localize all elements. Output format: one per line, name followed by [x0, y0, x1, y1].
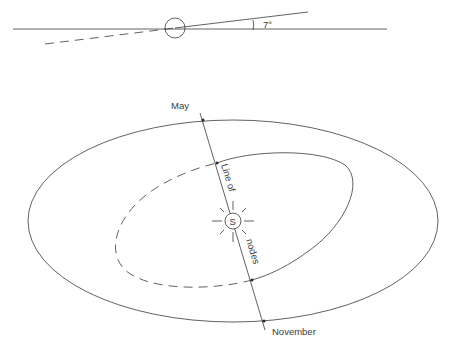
may-label: May — [171, 100, 189, 111]
node-dot-inner-upper — [216, 162, 219, 165]
november-label: November — [272, 326, 316, 337]
node-dot-november — [263, 320, 266, 323]
inclination-panel — [13, 12, 387, 44]
sun-label: S — [230, 216, 236, 227]
node-dot-may — [202, 119, 205, 122]
line-of-label: Line of — [219, 162, 238, 193]
node-dot-inner-lower — [251, 279, 254, 282]
nodes-label: nodes — [244, 237, 262, 265]
inclination-angle-label: 7° — [263, 19, 272, 30]
angle-arc — [253, 20, 254, 30]
inclined-orbit-dashed-line — [45, 28, 175, 44]
orbit-inclination-diagram: 7° S May November Line of nodes — [0, 0, 450, 349]
inclined-orbit-line — [175, 12, 308, 28]
